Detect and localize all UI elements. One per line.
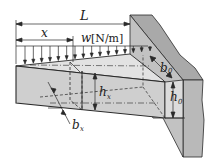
label-b0: b [160,61,168,75]
label-load-unit: [N/m] [91,32,123,45]
label-bx: b [72,118,80,132]
tapered-cantilever-beam-diagram: L x w [N/m] h x h 0 b 0 b x [0,0,221,167]
label-h0: h [170,90,178,104]
load-arrow-head [107,51,110,55]
label-bx-sub: x [80,125,84,133]
load-arrow-head [57,57,60,61]
label-hx: h [99,85,107,99]
load-arrow-head [115,50,118,54]
load-arrow-head [32,59,35,63]
wall-front-face [183,80,204,157]
label-L: L [79,8,89,23]
load-arrow-head [40,58,43,62]
load-arrow-head [74,55,77,59]
label-b0-sub: 0 [168,67,173,75]
load-arrow-head [49,57,52,61]
load-arrow-head [90,53,93,57]
load-arrow-head [24,60,27,64]
load-arrow-head [65,56,68,60]
label-hx-sub: x [107,93,111,101]
label-h0-sub: 0 [178,98,183,106]
label-x: x [41,26,48,40]
load-arrow-head [82,54,85,58]
load-arrow-head [99,52,102,56]
load-arrow-head [124,50,127,54]
